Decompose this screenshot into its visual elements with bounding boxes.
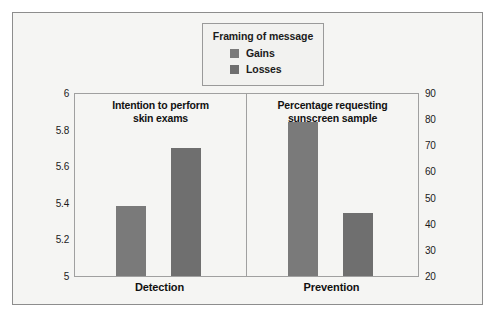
bar-detection-gains xyxy=(116,206,146,276)
bar-detection-losses xyxy=(171,148,201,276)
left-axis-tick: 5.2 xyxy=(29,235,69,245)
legend-title: Framing of message xyxy=(203,29,323,43)
panel-detection: Intention to perform skin exams xyxy=(75,94,246,276)
plot-area: Intention to perform skin exams Percenta… xyxy=(74,93,419,277)
right-axis-tick: 60 xyxy=(425,167,465,177)
chart-figure: Framing of message Gains Losses 65.85.65… xyxy=(12,12,483,305)
right-axis-tick: 30 xyxy=(425,246,465,256)
chart-legend: Framing of message Gains Losses xyxy=(202,23,324,86)
right-axis: 9080706050403020 xyxy=(425,93,469,277)
legend-label-gains: Gains xyxy=(246,47,275,59)
category-label-detection: Detection xyxy=(74,281,245,293)
bar-prevention-losses xyxy=(343,213,373,276)
legend-swatch-losses xyxy=(230,65,239,74)
legend-label-losses: Losses xyxy=(246,63,282,75)
panel-prevention-bars xyxy=(247,94,418,276)
panel-detection-bars xyxy=(75,94,246,276)
category-label-prevention: Prevention xyxy=(246,281,417,293)
right-axis-tick: 40 xyxy=(425,220,465,230)
right-axis-tick: 20 xyxy=(425,272,465,282)
left-axis-tick: 5.8 xyxy=(29,126,69,136)
legend-entry-losses: Losses xyxy=(203,63,323,75)
right-axis-tick: 70 xyxy=(425,141,465,151)
right-axis-tick: 80 xyxy=(425,115,465,125)
legend-swatch-gains xyxy=(230,49,239,58)
legend-entry-gains: Gains xyxy=(203,47,323,59)
right-axis-tick: 90 xyxy=(425,89,465,99)
bar-prevention-gains xyxy=(288,122,318,276)
right-axis-tick: 50 xyxy=(425,194,465,204)
left-axis-tick: 5 xyxy=(29,272,69,282)
left-axis-tick: 5.6 xyxy=(29,162,69,172)
left-axis-tick: 6 xyxy=(29,89,69,99)
panel-prevention: Percentage requesting sunscreen sample xyxy=(247,94,418,276)
left-axis-tick: 5.4 xyxy=(29,199,69,209)
left-axis: 65.85.65.45.25 xyxy=(25,93,69,277)
